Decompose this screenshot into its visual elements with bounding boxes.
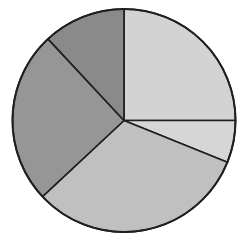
pie-slice-1[interactable] (124, 9, 236, 121)
pie-chart-svg (0, 0, 242, 240)
pie-chart-figure (0, 0, 242, 240)
pie-slice-group (12, 9, 235, 232)
